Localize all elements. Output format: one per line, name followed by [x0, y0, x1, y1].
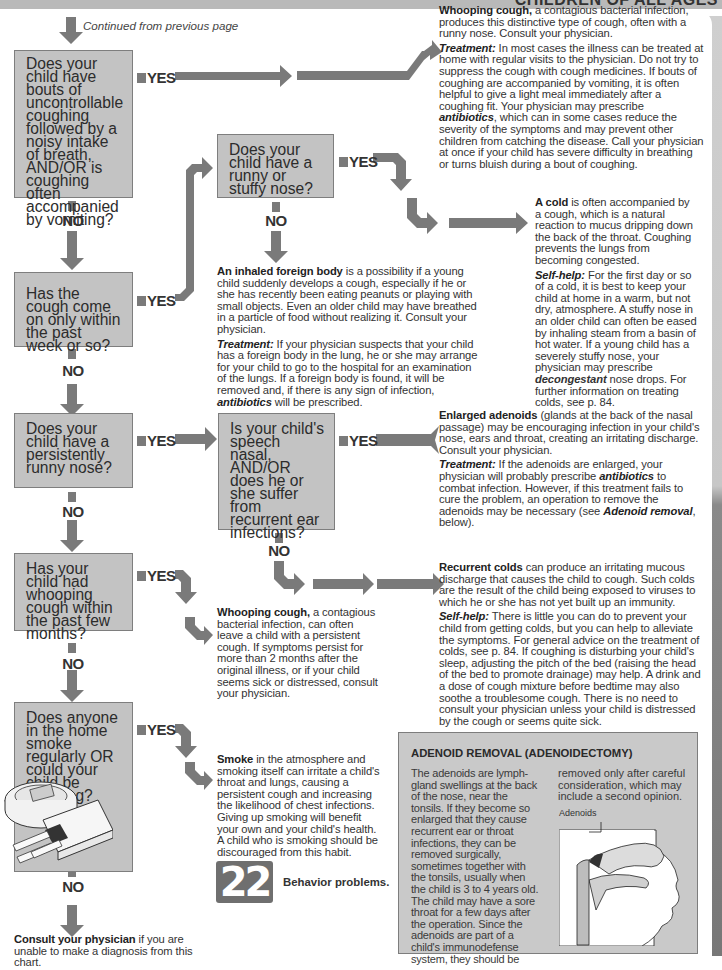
no-label-q2: NO [58, 362, 88, 379]
yes-label-q4: YES [137, 567, 176, 584]
no-label-q3: NO [58, 503, 88, 520]
question-text: Has your child had whooping cough within… [26, 560, 113, 642]
yes-label-q1: YES [137, 69, 176, 86]
outcome-whooping-after-effects: Whooping cough, a contagious bacterial i… [217, 607, 379, 703]
sidebar-title: ADENOID REMOVAL (ADENOIDECTOMY) [411, 747, 633, 759]
chart-22-title[interactable]: Behavior problems. [283, 876, 389, 888]
question-box-3a[interactable]: Is your child's speech nasal, AND/OR doe… [218, 413, 335, 530]
outcome-enlarged-adenoids: Enlarged adenoids (glands at the back of… [439, 410, 704, 532]
continued-note: Continued from previous page [83, 19, 238, 32]
chart-22-badge[interactable]: 22 [216, 861, 273, 903]
yes-label-q2: YES [137, 292, 176, 309]
outcome-cold: A cold is often accompanied by a cough, … [535, 197, 697, 412]
outcome-consult-physician: Consult your physician if you are unable… [14, 934, 214, 970]
question-text: Does your child have a runny or stuffy n… [229, 141, 313, 197]
yes-label-q3a: YES [339, 432, 378, 449]
yes-label-q5: YES [137, 721, 176, 738]
question-text: Does your child have bouts of uncontroll… [26, 55, 123, 228]
question-box-5[interactable]: Does anyone in the home smoke regularly … [14, 702, 133, 872]
outcome-foreign-body: An inhaled foreign body is a possibility… [217, 266, 479, 411]
sidebar-column-2: removed only after careful consideration… [558, 768, 688, 803]
no-label-q4: NO [58, 655, 88, 672]
ashtray-cigarettes-illustration [3, 775, 113, 870]
sidebar-column-1: The adenoids are lymph-gland swellings a… [411, 768, 539, 965]
question-text: Does your child have a persistently runn… [26, 420, 112, 476]
illustration-label-adenoids: Adenoids [559, 808, 597, 818]
question-box-1[interactable]: Does your child have bouts of uncontroll… [14, 50, 133, 198]
no-label-q2a: NO [261, 212, 291, 229]
no-label-q5: NO [58, 878, 88, 895]
adenoid-cross-section-illustration [559, 820, 689, 946]
no-label-q3a: NO [264, 542, 294, 559]
yes-label-q3: YES [137, 432, 176, 449]
yes-label-q2a: YES [339, 153, 378, 170]
adenoid-removal-link[interactable]: Adenoid removal [603, 505, 692, 517]
no-label-q1: NO [58, 212, 88, 229]
question-text: Is your child's speech nasal, AND/OR doe… [230, 420, 324, 541]
outcome-recurrent-colds: Recurrent colds can produce an irritatin… [439, 562, 704, 730]
question-box-2[interactable]: Has the cough come on only within the pa… [14, 272, 133, 347]
outcome-whooping-cough: Whooping cough, a contagious bacterial i… [439, 5, 704, 173]
question-box-4[interactable]: Has your child had whooping cough within… [14, 553, 133, 631]
question-box-2a[interactable]: Does your child have a runny or stuffy n… [217, 134, 334, 198]
question-box-3[interactable]: Does your child have a persistently runn… [14, 413, 133, 488]
question-text: Has the cough come on only within the pa… [26, 285, 120, 354]
adenoid-removal-sidebar: ADENOID REMOVAL (ADENOIDECTOMY) The aden… [398, 732, 698, 954]
